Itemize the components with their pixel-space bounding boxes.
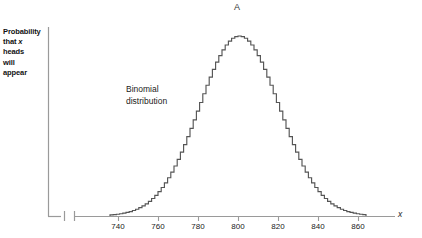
y-axis-label-line-1: Probability [3,27,41,36]
panel-label: A [222,2,252,12]
curve-annotation-line-1: Binomial [126,84,159,94]
x-tick-label-800: 800 [218,222,258,231]
x-tick-label-780: 780 [178,222,218,231]
binomial-curve-path [110,36,366,216]
y-axis-label-line-4: will [3,58,15,67]
x-tick-label-860: 860 [338,222,378,231]
x-tick-label-760: 760 [138,222,178,231]
x-tick-label-820: 820 [258,222,298,231]
figure-panel: A Probability that x heads will appear B… [0,0,422,238]
plot-canvas [0,0,422,238]
y-axis-label: Probability that x heads will appear [3,27,47,78]
y-axis-label-line-3: heads [3,47,24,56]
binomial-curve [110,36,366,216]
x-axis-name: x [398,209,402,219]
y-axis-label-variable: x [18,37,22,46]
curve-annotation-line-2: distribution [126,96,167,106]
y-axis-label-line-2: that [3,37,16,46]
x-tick-label-840: 840 [298,222,338,231]
x-tick-label-740: 740 [98,222,138,231]
curve-annotation: Binomial distribution [126,84,167,107]
y-axis-label-line-5: appear [3,68,27,77]
